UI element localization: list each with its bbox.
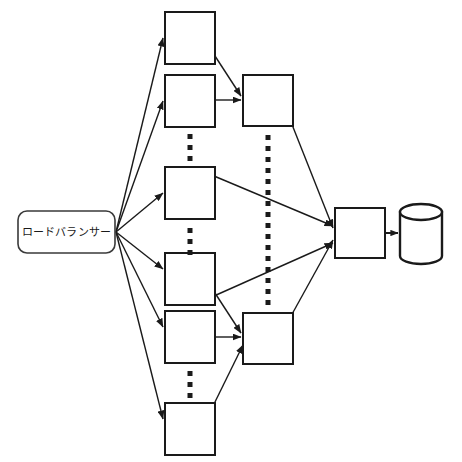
edge-mid-top-to-aggregator <box>291 122 333 228</box>
ellipsis-dot <box>188 228 193 233</box>
ellipsis-dot <box>188 393 193 398</box>
mid-server-top[interactable] <box>243 75 293 126</box>
ellipsis-dot <box>266 212 271 217</box>
app-server-2[interactable] <box>165 75 215 127</box>
edge-app4-to-mid-bottom <box>213 290 241 333</box>
ellipsis-dot <box>266 289 271 294</box>
app-server-5[interactable] <box>165 311 215 363</box>
ellipsis-dot <box>266 168 271 173</box>
edge-app6-to-mid-bottom <box>214 345 243 404</box>
ellipsis-column2-vertical <box>266 135 271 305</box>
ellipsis-dot <box>266 135 271 140</box>
ellipsis-dot <box>188 371 193 376</box>
database-cylinder[interactable] <box>400 204 442 264</box>
architecture-diagram-canvas: ロードバランサー <box>0 0 462 462</box>
ellipsis-dot <box>188 145 193 150</box>
ellipsis-dot <box>266 223 271 228</box>
app-server-6[interactable] <box>165 403 215 455</box>
ellipsis-dot <box>266 179 271 184</box>
ellipsis-column1-middle <box>188 228 193 255</box>
ellipsis-dot <box>266 146 271 151</box>
edge-app4-to-aggregator <box>214 243 333 296</box>
ellipsis-dot <box>266 234 271 239</box>
load-balancer-label: ロードバランサー <box>22 226 112 239</box>
edge-app1-to-mid-top <box>215 56 241 96</box>
database-top-ellipse <box>400 204 442 220</box>
ellipsis-dot <box>266 157 271 162</box>
ellipsis-dot <box>188 134 193 139</box>
app-server-3[interactable] <box>165 167 215 219</box>
ellipsis-dot <box>266 201 271 206</box>
ellipsis-dot <box>266 300 271 305</box>
ellipsis-dot <box>266 245 271 250</box>
ellipsis-dot <box>188 239 193 244</box>
ellipsis-dot <box>188 382 193 387</box>
ellipsis-dot <box>266 190 271 195</box>
aggregator-server[interactable] <box>335 208 385 258</box>
edge-lb-to-app-1 <box>116 38 163 232</box>
ellipsis-column1-lower <box>188 371 193 398</box>
mid-server-bottom[interactable] <box>243 313 293 364</box>
edge-lb-to-app-6 <box>116 232 163 419</box>
ellipsis-dot <box>188 156 193 161</box>
ellipsis-dot <box>266 278 271 283</box>
app-server-4[interactable] <box>165 253 215 305</box>
edge-lb-to-app-4 <box>116 232 163 269</box>
ellipsis-dot <box>188 250 193 255</box>
labels-layer: ロードバランサー <box>22 226 112 239</box>
edge-lb-to-app-5 <box>116 232 163 327</box>
ellipsis-dot <box>266 256 271 261</box>
ellipsis-column1-upper <box>188 134 193 161</box>
ellipsis-dot <box>266 267 271 272</box>
app-server-1[interactable] <box>165 12 215 64</box>
architecture-diagram-svg: ロードバランサー <box>0 0 462 462</box>
edge-mid-bottom-to-aggregator <box>291 240 333 316</box>
